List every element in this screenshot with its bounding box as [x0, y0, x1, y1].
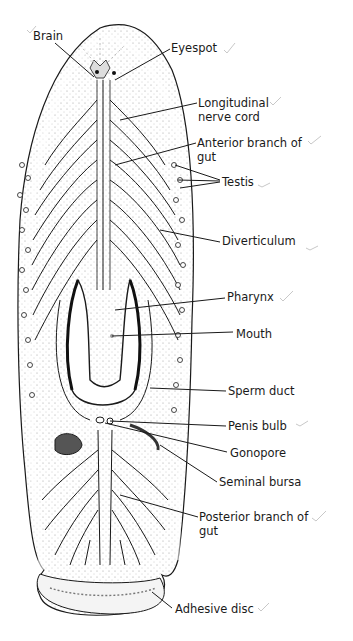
- label-sperm-duct: Sperm duct: [228, 384, 294, 398]
- eyespot-right: [112, 71, 116, 75]
- label-mouth: Mouth: [236, 327, 272, 341]
- label-pharynx: Pharynx: [227, 290, 274, 304]
- penis-bulb-shape: [96, 417, 104, 423]
- eyespot-left: [95, 70, 99, 74]
- label-penis-bulb: Penis bulb: [228, 419, 287, 433]
- body-outline: [18, 25, 193, 616]
- label-posterior-branch-of-gut: Posterior branch of gut: [199, 510, 308, 538]
- label-adhesive-disc: Adhesive disc: [175, 602, 254, 616]
- label-anterior-branch-of-gut: Anterior branch of gut: [197, 136, 302, 164]
- label-diverticulum: Diverticulum: [222, 234, 296, 248]
- label-eyespot: Eyespot: [171, 41, 217, 55]
- planarian-diagram: [0, 0, 353, 641]
- label-gonopore: Gonopore: [230, 446, 286, 460]
- label-seminal-bursa: Seminal bursa: [219, 475, 301, 489]
- label-brain: Brain: [33, 29, 63, 43]
- label-longitudinal-nerve-cord: Longitudinal nerve cord: [198, 96, 269, 124]
- label-testis: Testis: [222, 175, 254, 189]
